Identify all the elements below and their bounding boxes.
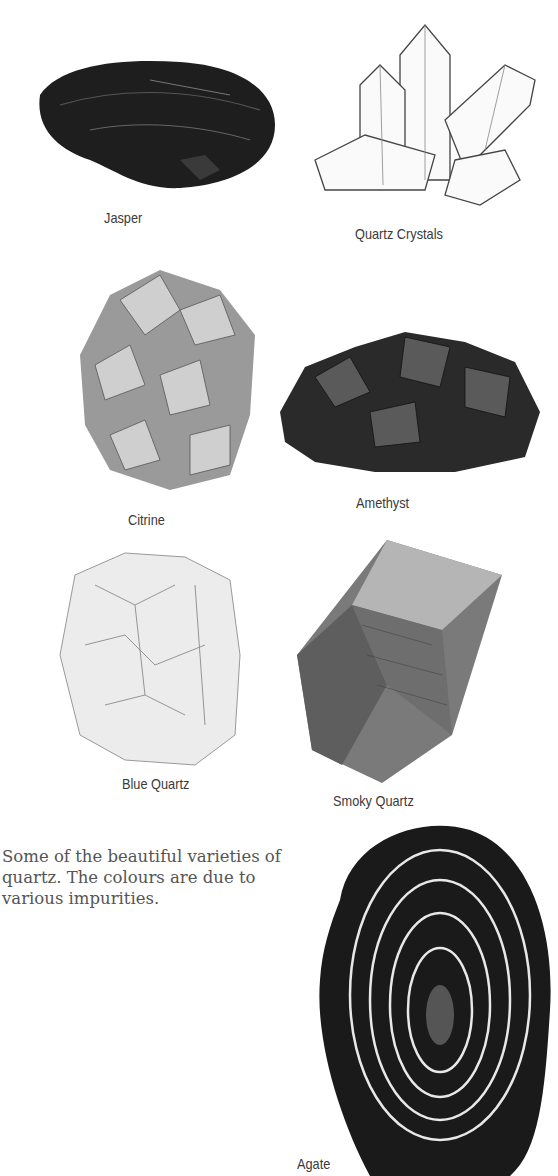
citrine-illustration (70, 265, 265, 495)
specimen-label-smoky-quartz: Smoky Quartz (333, 792, 414, 809)
specimen-label-amethyst: Amethyst (356, 494, 409, 511)
blue-quartz-illustration (55, 545, 245, 770)
amethyst-illustration (275, 322, 543, 482)
jasper-illustration (30, 50, 280, 195)
specimen-label-citrine: Citrine (128, 511, 165, 528)
smoky-quartz-illustration (292, 535, 507, 785)
figure-caption: Some of the beautiful varieties of quart… (2, 846, 292, 909)
quartz-crystals-illustration (305, 10, 550, 215)
specimen-label-blue-quartz: Blue Quartz (122, 775, 189, 792)
specimen-label-quartz-crystals: Quartz Crystals (355, 225, 443, 242)
specimen-label-jasper: Jasper (104, 209, 142, 226)
agate-illustration (310, 820, 558, 1176)
specimen-label-agate: Agate (297, 1155, 330, 1172)
